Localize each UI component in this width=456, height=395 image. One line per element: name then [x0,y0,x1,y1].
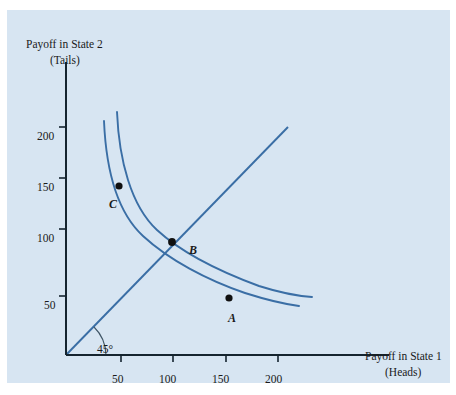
y-tick-label-50: 50 [44,299,56,312]
x-tick-label-50: 50 [112,373,124,386]
data-point-label-a: A [228,312,236,326]
x-tick-label-150: 150 [212,373,229,386]
x-tick-label-200: 200 [265,373,282,386]
x-axis-subtitle: (Heads) [385,366,421,379]
data-point-label-c: C [109,198,117,212]
data-point-c [115,182,122,189]
data-point-label-b: B [189,244,197,258]
figure-container: Payoff in State 2 (Tails) Payoff in Stat… [0,0,456,395]
y-axis-title: Payoff in State 2 [26,38,103,51]
data-point-a [225,294,232,301]
angle-label-45: 45° [97,343,113,356]
y-tick-label-150: 150 [37,181,54,194]
x-tick-label-100: 100 [159,373,176,386]
series-indifference-curve-inner [104,121,299,306]
chart-panel: Payoff in State 2 (Tails) Payoff in Stat… [7,10,450,383]
x-axis-title: Payoff in State 1 [365,350,442,363]
y-tick-label-100: 100 [37,232,54,245]
y-axis-subtitle: (Tails) [50,54,80,67]
data-point-b [168,238,176,246]
series-45-degree-line [66,127,288,355]
series-indifference-curve-outer [117,112,312,297]
y-tick-label-200: 200 [37,130,54,143]
